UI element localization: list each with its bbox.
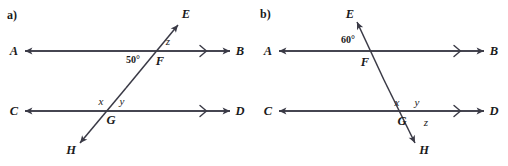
intersection-label-f: F <box>361 56 369 69</box>
line-cd <box>25 106 230 117</box>
point-label-a: A <box>264 45 272 58</box>
point-label-e: E <box>346 8 354 21</box>
point-label-b: B <box>490 45 498 58</box>
point-label-d: D <box>235 105 244 118</box>
line-cd <box>279 106 484 117</box>
panel-a-geometry-canvas <box>0 0 254 166</box>
angle-label-z: z <box>166 36 170 47</box>
point-label-b: B <box>236 45 244 58</box>
angle-label-y: y <box>120 96 125 107</box>
point-label-h: H <box>66 144 76 157</box>
point-label-c: C <box>10 105 18 118</box>
intersection-label-g: G <box>397 115 406 128</box>
point-label-e: E <box>182 8 190 21</box>
panel-b-geometry-canvas <box>254 0 508 166</box>
angle-label-z: z <box>424 117 428 128</box>
angle-label-y: y <box>415 97 420 108</box>
angle-label-x: x <box>395 97 400 108</box>
diagram-panel-b: b) <box>254 0 508 166</box>
point-label-a: A <box>10 45 18 58</box>
point-label-h: H <box>419 144 429 157</box>
point-label-d: D <box>489 105 498 118</box>
intersection-label-f: F <box>156 55 164 68</box>
line-ab <box>279 46 484 57</box>
diagram-panel-a: a) <box>0 0 254 166</box>
angle-label-x: x <box>99 96 104 107</box>
angle-label-60-degrees: 60° <box>341 35 355 45</box>
intersection-label-g: G <box>106 114 115 127</box>
point-label-c: C <box>264 105 272 118</box>
geometry-figure: a) <box>0 0 508 166</box>
angle-label-50-degrees: 50° <box>126 55 140 65</box>
transversal-eh <box>80 25 178 143</box>
